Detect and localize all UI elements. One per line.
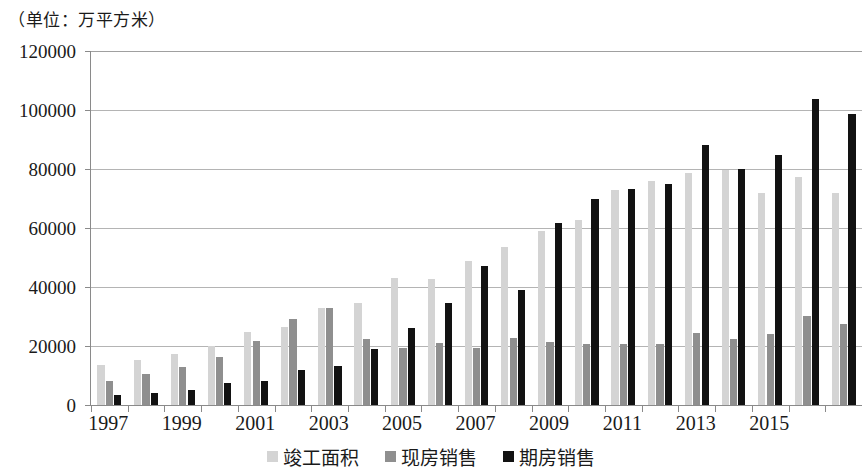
y-axis-tick-label: 120000 [19, 42, 76, 61]
legend-label: 竣工面积 [283, 443, 359, 470]
bar-group [685, 51, 709, 405]
bar-期房销售-2011 [628, 189, 635, 405]
bar-竣工面积-2003 [318, 308, 325, 405]
bar-竣工面积-2012 [648, 181, 655, 405]
x-axis-tick-label: 1997 [88, 412, 128, 435]
x-axis-tick-mark [91, 405, 92, 412]
bar-竣工面积-2004 [354, 303, 361, 405]
bar-现房销售-2004 [363, 339, 370, 405]
x-axis-tick-mark [458, 405, 459, 412]
x-axis-tick-label: 2009 [529, 412, 569, 435]
legend-label: 现房销售 [401, 443, 477, 470]
legend-swatch-icon [503, 451, 514, 462]
chart-legend: 竣工面积现房销售期房销售 [0, 443, 862, 470]
bar-group [538, 51, 562, 405]
bar-竣工面积-2014 [722, 170, 729, 405]
bar-group [575, 51, 599, 405]
x-axis-tick-mark [311, 405, 312, 412]
bar-group [318, 51, 342, 405]
bar-现房销售-2006 [436, 343, 443, 405]
x-axis-tick-label: 1999 [162, 412, 202, 435]
legend-swatch-icon [267, 451, 278, 462]
bar-期房销售-1999 [188, 390, 195, 405]
bar-期房销售-2003 [334, 366, 341, 405]
bar-竣工面积-2001 [244, 332, 251, 405]
x-axis-tick-mark [495, 405, 496, 412]
bar-竣工面积-2000 [208, 346, 215, 405]
bar-group [722, 51, 746, 405]
bar-竣工面积-2007 [465, 261, 472, 405]
bar-期房销售-2007 [481, 266, 488, 405]
x-axis-tick-label: 2007 [456, 412, 496, 435]
bar-期房销售-2002 [298, 370, 305, 405]
bar-期房销售-2012 [665, 184, 672, 405]
bar-竣工面积-2006 [428, 279, 435, 405]
x-axis-tick-mark [532, 405, 533, 412]
x-axis-tick-mark [275, 405, 276, 412]
bar-期房销售-2015 [775, 155, 782, 405]
bar-期房销售-2006 [445, 303, 452, 405]
bar-group [832, 51, 856, 405]
bar-group [465, 51, 489, 405]
legend-item: 现房销售 [385, 443, 477, 470]
x-axis-tick-label: 2013 [676, 412, 716, 435]
bar-竣工面积-2010 [575, 220, 582, 405]
x-axis-tick-mark [752, 405, 753, 412]
bar-现房销售-2002 [289, 319, 296, 405]
bar-竣工面积-1998 [134, 360, 141, 405]
bar-group [795, 51, 819, 405]
bar-group [648, 51, 672, 405]
y-axis-tick-mark [85, 287, 91, 288]
y-axis-tick-mark [85, 51, 91, 52]
y-axis-tick-label: 80000 [29, 160, 77, 179]
bar-竣工面积-2017 [832, 193, 839, 405]
x-axis-tick-mark [605, 405, 606, 412]
legend-label: 期房销售 [519, 443, 595, 470]
y-axis-tick-mark [85, 228, 91, 229]
x-axis-tick-mark [678, 405, 679, 412]
x-axis-tick-mark [128, 405, 129, 412]
bar-group [171, 51, 195, 405]
bar-现房销售-2010 [583, 344, 590, 405]
bar-现房销售-1999 [179, 367, 186, 405]
x-axis-tick-label: 2005 [382, 412, 422, 435]
bar-现房销售-2009 [546, 342, 553, 405]
x-axis-tick-mark [789, 405, 790, 412]
bar-现房销售-2014 [730, 339, 737, 405]
bar-现房销售-2011 [620, 344, 627, 405]
x-axis-tick-mark [825, 405, 826, 412]
y-axis-labels: 020000400006000080000100000120000 [0, 0, 86, 471]
legend-swatch-icon [385, 451, 396, 462]
bar-现房销售-2001 [253, 341, 260, 405]
x-axis-tick-mark [568, 405, 569, 412]
bar-现房销售-1997 [106, 381, 113, 405]
bar-现房销售-2016 [803, 316, 810, 405]
bar-竣工面积-1999 [171, 354, 178, 405]
x-axis-tick-label: 2015 [749, 412, 789, 435]
bar-竣工面积-2015 [758, 193, 765, 405]
bar-现房销售-2017 [840, 324, 847, 405]
bar-期房销售-2010 [591, 199, 598, 406]
bar-期房销售-2009 [555, 223, 562, 405]
bar-group [208, 51, 232, 405]
bar-期房销售-2013 [702, 145, 709, 405]
bar-group [134, 51, 158, 405]
bar-group [611, 51, 635, 405]
y-axis-tick-mark [85, 346, 91, 347]
bar-group [758, 51, 782, 405]
bar-期房销售-1997 [114, 395, 121, 405]
bar-竣工面积-2002 [281, 327, 288, 405]
x-axis-tick-mark [385, 405, 386, 412]
bar-期房销售-2016 [812, 99, 819, 406]
bar-竣工面积-2009 [538, 231, 545, 405]
bar-期房销售-2001 [261, 381, 268, 405]
bar-期房销售-2005 [408, 328, 415, 405]
bar-现房销售-1998 [142, 374, 149, 405]
bar-chart: （单位：万平方米） 020000400006000080000100000120… [0, 0, 862, 471]
bar-期房销售-2000 [224, 383, 231, 405]
bar-group [501, 51, 525, 405]
bar-现房销售-2008 [510, 338, 517, 405]
y-axis-tick-mark [85, 169, 91, 170]
x-axis-tick-label: 2011 [603, 412, 642, 435]
y-axis-tick-label: 100000 [19, 101, 76, 120]
